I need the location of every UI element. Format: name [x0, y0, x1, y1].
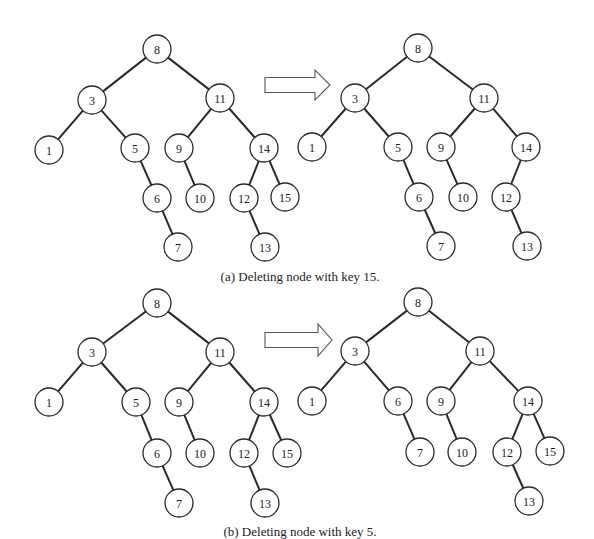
node-key-label: 5	[132, 142, 138, 156]
tree-edge	[404, 414, 415, 439]
node-key-label: 15	[281, 447, 293, 461]
tree-edge	[249, 161, 259, 185]
node-key-label: 7	[438, 240, 444, 254]
tree-node-12: 12	[492, 183, 520, 211]
tree-node-7: 7	[406, 438, 434, 466]
tree-node-6: 6	[143, 184, 171, 212]
tree-node-15: 15	[273, 439, 301, 467]
tree-edge	[188, 363, 211, 391]
node-key-label: 7	[417, 446, 423, 460]
tree-edge	[168, 312, 209, 344]
tree-edge	[250, 211, 260, 234]
tree-edge	[270, 161, 280, 184]
tree-edge	[141, 161, 152, 185]
tree-node-10: 10	[448, 438, 476, 466]
tree-edge	[366, 57, 407, 90]
tree-node-12: 12	[230, 184, 258, 212]
tree-a-after: 83111591461012713	[298, 34, 541, 260]
tree-node-3: 3	[78, 86, 106, 114]
node-key-label: 9	[176, 396, 182, 410]
node-key-label: 6	[154, 447, 160, 461]
node-key-label: 3	[89, 346, 95, 360]
node-key-label: 3	[89, 94, 95, 108]
tree-node-1: 1	[298, 133, 326, 161]
node-key-label: 15	[544, 445, 556, 459]
caption-b: (b) Deleting node with key 5.	[223, 524, 376, 539]
tree-edge	[188, 109, 211, 137]
node-key-label: 9	[438, 395, 444, 409]
tree-node-13: 13	[251, 489, 279, 517]
tree-edge	[101, 110, 125, 137]
node-key-label: 10	[194, 447, 206, 461]
tree-node-3: 3	[341, 84, 369, 112]
node-key-label: 8	[154, 297, 160, 311]
node-key-label: 5	[395, 141, 401, 155]
tree-edge	[229, 363, 255, 392]
tree-node-6: 6	[143, 439, 171, 467]
tree-node-15: 15	[536, 437, 564, 465]
node-key-label: 11	[214, 92, 226, 106]
tree-node-9: 9	[427, 387, 455, 415]
tree-edge	[103, 58, 146, 92]
node-key-label: 13	[259, 241, 271, 255]
tree-node-12: 12	[493, 438, 521, 466]
tree-edge	[184, 415, 194, 440]
tree-edge	[321, 109, 346, 137]
tree-b-after: 831116914710121513	[298, 288, 564, 515]
node-key-label: 1	[309, 141, 315, 155]
node-key-label: 12	[500, 191, 512, 205]
tree-node-11: 11	[466, 337, 494, 365]
tree-node-9: 9	[165, 134, 193, 162]
node-key-label: 11	[214, 346, 226, 360]
tree-edge	[450, 362, 472, 390]
node-key-label: 13	[523, 495, 535, 509]
tree-edge	[321, 362, 346, 391]
tree-node-11: 11	[470, 84, 498, 112]
tree-node-10: 10	[186, 184, 214, 212]
tree-edge	[534, 414, 545, 438]
tree-node-13: 13	[515, 487, 543, 515]
node-key-label: 6	[416, 191, 422, 205]
panel-b: 8311159146101215713 831116914710121513	[35, 288, 564, 517]
node-key-label: 6	[395, 395, 401, 409]
node-key-label: 8	[415, 296, 421, 310]
tree-edge	[141, 415, 151, 440]
tree-node-3: 3	[78, 338, 106, 366]
tree-edge	[513, 465, 524, 488]
tree-edge	[512, 210, 522, 233]
tree-edge	[270, 415, 281, 440]
node-key-label: 7	[175, 241, 181, 255]
tree-node-11: 11	[206, 338, 234, 366]
tree-node-8: 8	[404, 288, 432, 316]
tree-node-8: 8	[143, 35, 171, 63]
node-key-label: 13	[259, 497, 271, 511]
tree-edge	[229, 109, 255, 138]
node-key-label: 1	[46, 144, 52, 158]
tree-node-3: 3	[341, 337, 369, 365]
node-key-label: 15	[279, 191, 291, 205]
tree-node-10: 10	[449, 183, 477, 211]
tree-node-11: 11	[206, 84, 234, 112]
panel-a: 8311159146101215713 83111591461012713	[35, 34, 541, 261]
tree-node-14: 14	[512, 133, 540, 161]
node-key-label: 14	[258, 142, 270, 156]
tree-node-14: 14	[514, 387, 542, 415]
tree-node-14: 14	[250, 388, 278, 416]
node-key-label: 7	[176, 497, 182, 511]
tree-node-15: 15	[271, 183, 299, 211]
node-key-label: 9	[438, 141, 444, 155]
tree-edge	[403, 160, 413, 184]
tree-node-1: 1	[298, 387, 326, 415]
tree-edge	[163, 211, 173, 234]
tree-edge	[490, 361, 519, 391]
tree-node-7: 7	[427, 232, 455, 260]
tree-node-9: 9	[165, 388, 193, 416]
tree-edge	[364, 109, 389, 137]
tree-node-8: 8	[143, 289, 171, 317]
tree-edge	[512, 414, 522, 439]
node-key-label: 1	[46, 396, 52, 410]
tree-node-13: 13	[251, 233, 279, 261]
tree-edge	[184, 161, 194, 185]
caption-a: (a) Deleting node with key 15.	[221, 269, 380, 285]
tree-edge	[249, 415, 259, 440]
